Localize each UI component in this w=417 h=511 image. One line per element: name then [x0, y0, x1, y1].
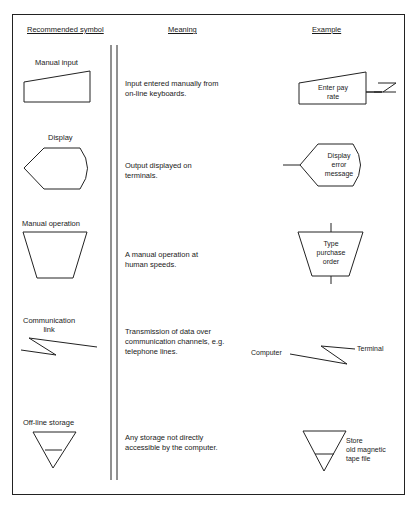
example-label-terminal: Terminal — [357, 344, 383, 353]
meaning-manual-input: Input entered manually from on-line keyb… — [125, 79, 218, 99]
meaning-manual-operation: A manual operation at human speeds. — [125, 250, 198, 270]
example-label-computer: Computer — [251, 348, 282, 357]
example-text-display: Display error message — [318, 151, 360, 178]
zigzag-icon — [378, 83, 396, 92]
communication-link-example — [290, 346, 355, 364]
symbol-label-manual-input: Manual input — [35, 58, 78, 67]
header-example: Example — [312, 25, 341, 34]
offline-storage-example — [303, 431, 346, 471]
meaning-communication-link: Transmission of data over communication … — [125, 327, 224, 357]
communication-link-symbol — [21, 338, 97, 355]
manual-operation-symbol — [23, 232, 87, 278]
display-symbol — [24, 148, 88, 189]
example-text-manual-operation: Type purchase order — [310, 239, 352, 266]
manual-input-symbol — [24, 71, 90, 102]
example-text-offline-storage: Store old magnetic tape file — [346, 436, 386, 463]
meaning-offline-storage: Any storage not directly accessible by t… — [125, 433, 218, 453]
symbol-label-manual-operation: Manual operation — [22, 219, 80, 228]
symbol-label-communication-link: Communication link — [23, 316, 75, 334]
symbol-label-offline-storage: Off-line storage — [23, 418, 74, 427]
symbol-label-display: Display — [48, 133, 73, 142]
header-recommended-symbol: Recommended symbol — [27, 25, 104, 34]
header-meaning: Meaning — [168, 25, 197, 34]
meaning-display: Output displayed on terminals. — [125, 161, 192, 181]
example-text-manual-input: Enter pay rate — [312, 83, 354, 101]
